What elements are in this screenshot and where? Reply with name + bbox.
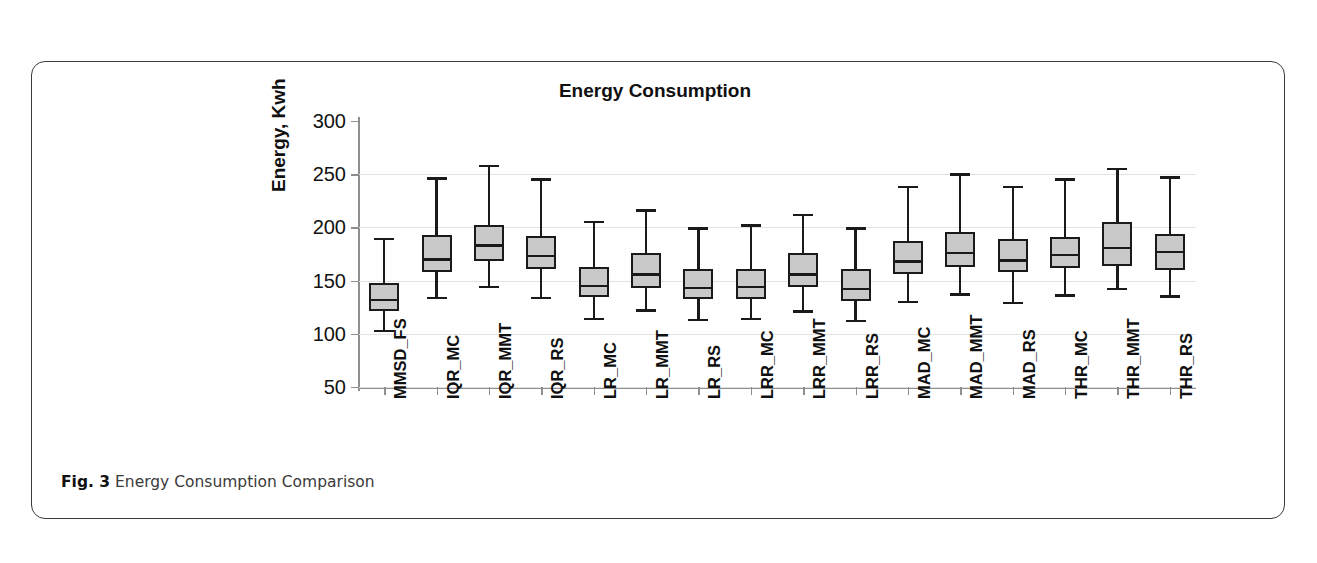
whisker-cap-upper	[427, 177, 447, 179]
x-axis-tick	[1117, 387, 1118, 395]
x-axis-category-label: LRR_MMT	[810, 318, 829, 399]
whisker-cap-upper	[584, 221, 604, 223]
plot-region: 50100150200250300 MMSD_FSIQR_MCIQR_MMTIQ…	[358, 121, 1198, 387]
figure-panel: Energy Consumption Energy, Kwh 501001502…	[31, 61, 1285, 519]
box-iqr	[736, 269, 766, 299]
whisker-cap-lower	[688, 319, 708, 321]
whisker-cap-upper	[1055, 178, 1075, 180]
whisker-upper	[854, 227, 856, 268]
box-plot: IQR_MC	[410, 121, 462, 387]
median-line	[369, 299, 399, 301]
gridline	[358, 387, 1196, 388]
y-axis-tick-label: 100	[313, 322, 346, 345]
whisker-cap-lower	[479, 286, 499, 288]
median-line	[998, 259, 1028, 261]
x-axis-category-label: THR_MC	[1072, 330, 1091, 399]
x-axis-tick	[646, 387, 647, 395]
whisker-upper	[488, 165, 490, 226]
median-line	[945, 252, 975, 254]
box-plot: MAD_MMT	[934, 121, 986, 387]
whisker-upper	[540, 178, 542, 235]
whisker-lower	[750, 299, 752, 318]
box-iqr	[1102, 222, 1132, 266]
x-axis-tick	[960, 387, 961, 395]
median-line	[788, 273, 818, 275]
box-iqr	[998, 239, 1028, 272]
x-axis-tick	[541, 387, 542, 395]
box-plot: IQR_RS	[515, 121, 567, 387]
x-axis-tick	[908, 387, 909, 395]
median-line	[422, 258, 452, 260]
x-axis-category-label: LRR_RS	[863, 333, 882, 399]
whisker-cap-lower	[584, 318, 604, 320]
whisker-cap-lower	[636, 309, 656, 311]
x-axis-tick	[803, 387, 804, 395]
x-axis-category-label: MAD_MC	[915, 327, 934, 399]
whisker-lower	[1169, 270, 1171, 296]
whisker-lower	[697, 299, 699, 319]
box-iqr	[1050, 237, 1080, 268]
box-plot: LR_RS	[672, 121, 724, 387]
whisker-upper	[593, 221, 595, 267]
median-line	[474, 244, 504, 246]
x-axis-tick	[1013, 387, 1014, 395]
whisker-cap-upper	[531, 178, 551, 180]
figure-caption-text: Energy Consumption Comparison	[115, 473, 375, 491]
whisker-cap-lower	[846, 320, 866, 322]
chart-title: Energy Consumption	[285, 80, 1025, 102]
whisker-cap-lower	[741, 318, 761, 320]
y-axis-tick-label: 150	[313, 269, 346, 292]
y-axis-tick-label: 200	[313, 216, 346, 239]
whisker-cap-upper	[1003, 186, 1023, 188]
median-line	[631, 273, 661, 275]
x-axis-category-label: IQR_MMT	[496, 323, 515, 399]
whisker-cap-lower	[898, 301, 918, 303]
whisker-lower	[383, 311, 385, 329]
box-iqr	[369, 283, 399, 312]
whisker-upper	[802, 214, 804, 253]
x-axis-tick	[856, 387, 857, 395]
whisker-cap-lower	[950, 293, 970, 295]
whisker-lower	[645, 288, 647, 309]
x-axis-tick	[384, 387, 385, 395]
whisker-upper	[697, 227, 699, 268]
whisker-cap-lower	[793, 310, 813, 312]
median-line	[736, 286, 766, 288]
whisker-lower	[854, 301, 856, 320]
box-iqr	[841, 269, 871, 301]
figure-caption: Fig. 3 Energy Consumption Comparison	[61, 473, 375, 491]
box-plot: MMSD_FS	[358, 121, 410, 387]
whisker-cap-upper	[479, 165, 499, 167]
median-line	[579, 285, 609, 287]
x-axis-category-label: THR_RS	[1177, 333, 1196, 399]
whisker-cap-upper	[846, 227, 866, 229]
y-axis-tick-label: 250	[313, 163, 346, 186]
whisker-upper	[1012, 186, 1014, 239]
whisker-cap-lower	[1055, 294, 1075, 296]
whisker-cap-upper	[950, 173, 970, 175]
whisker-lower	[907, 274, 909, 301]
whisker-lower	[488, 261, 490, 285]
whisker-cap-upper	[374, 238, 394, 240]
whisker-upper	[435, 177, 437, 234]
whisker-cap-lower	[427, 297, 447, 299]
box-plot: LRR_MC	[725, 121, 777, 387]
whisker-upper	[959, 173, 961, 232]
x-axis-tick	[1065, 387, 1066, 395]
whisker-upper	[1116, 168, 1118, 222]
median-line	[841, 288, 871, 290]
whisker-lower	[435, 272, 437, 296]
median-line	[893, 260, 923, 262]
whisker-lower	[593, 297, 595, 318]
median-line	[1155, 251, 1185, 253]
box-plot: LRR_RS	[829, 121, 881, 387]
whisker-cap-lower	[1160, 295, 1180, 297]
whisker-cap-upper	[741, 224, 761, 226]
x-axis-category-label: MMSD_FS	[391, 318, 410, 399]
whisker-upper	[383, 238, 385, 283]
box-plot: THR_MC	[1039, 121, 1091, 387]
figure-caption-label: Fig. 3	[61, 473, 110, 491]
x-axis-category-label: THR_MMT	[1124, 318, 1143, 399]
whisker-cap-upper	[1160, 176, 1180, 178]
box-iqr	[422, 235, 452, 272]
